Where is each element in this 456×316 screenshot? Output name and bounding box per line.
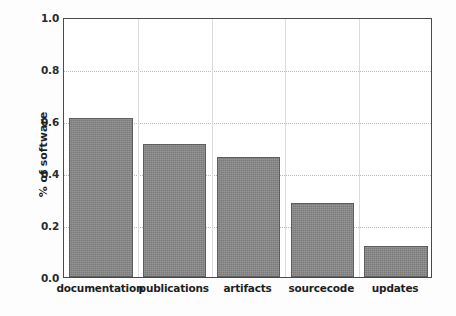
bar-updates [364,246,427,277]
y-axis-tick-label: 1.0 [19,12,59,24]
bar-publications [143,144,206,277]
x-axis-tick-label-publications: publications [139,282,209,294]
bar-sourcecode [291,203,354,277]
x-axis-tick-label-documentation: documentation [57,282,144,294]
x-axis-tick-label-updates: updates [372,282,419,294]
bar-documentation [69,118,132,277]
x-axis-tick-label-artifacts: artifacts [223,282,271,294]
bar-chart-screenshot: 0.00.20.40.60.81.0 % of software documen… [0,0,456,316]
y-axis-title: % of software [37,75,50,235]
bar-artifacts [217,157,280,277]
plot-area [63,18,432,278]
y-axis-tick-label: 0.0 [19,272,59,284]
x-axis-tick-label-sourcecode: sourcecode [289,282,355,294]
bars-layer [64,19,431,277]
